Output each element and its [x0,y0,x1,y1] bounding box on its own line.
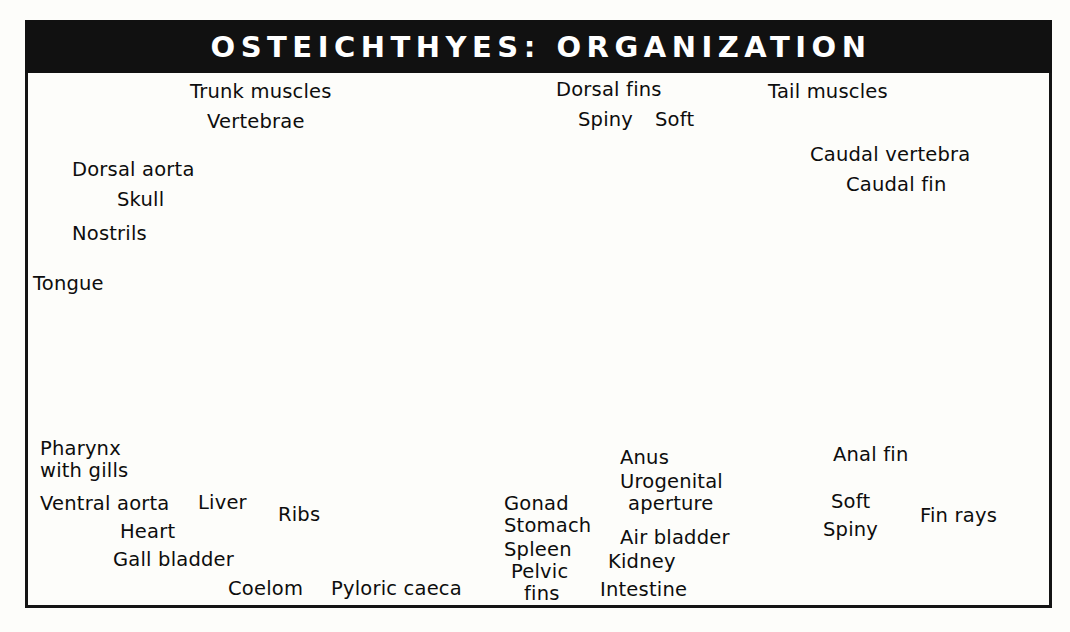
label-dorsal-spiny: Spiny [578,108,633,131]
label-tail-muscles: Tail muscles [768,80,888,103]
label-nostrils: Nostrils [72,222,147,245]
label-kidney: Kidney [608,550,676,573]
label-urogenital-l1: Urogenital [620,470,723,493]
label-pelvic-l1: Pelvic [511,560,568,583]
label-trunk-muscles: Trunk muscles [190,80,332,103]
label-caudal-fin: Caudal fin [846,173,947,196]
label-dorsal-soft: Soft [655,108,694,131]
label-tongue: Tongue [33,272,104,295]
label-spleen: Spleen [504,538,572,561]
label-heart: Heart [120,520,175,543]
label-gonad: Gonad [504,492,569,515]
label-fin-soft: Soft [831,490,870,513]
figure-plate: OSTEICHTHYES: ORGANIZATION Trunk muscles… [0,0,1070,632]
label-fin-spiny: Spiny [823,518,878,541]
label-stomach: Stomach [504,514,591,537]
label-gall-bladder: Gall bladder [113,548,234,571]
page-title: OSTEICHTHYES: ORGANIZATION [206,30,872,64]
label-dorsal-fins: Dorsal fins [556,78,662,101]
label-skull: Skull [117,188,164,211]
label-vertebrae: Vertebrae [207,110,305,133]
label-fin-rays: Fin rays [920,504,997,527]
label-ribs: Ribs [278,503,320,526]
label-liver: Liver [198,491,247,514]
label-coelom: Coelom [228,577,303,600]
label-pelvic-l2: fins [524,582,560,605]
label-pyloric-caeca: Pyloric caeca [331,577,462,600]
plate-title-bar: OSTEICHTHYES: ORGANIZATION [25,20,1052,73]
label-pharynx-l1: Pharynx [40,437,121,460]
label-intestine: Intestine [600,578,687,601]
label-urogenital-l2: aperture [628,492,714,515]
label-ventral-aorta: Ventral aorta [40,492,170,515]
label-air-bladder: Air bladder [620,526,730,549]
label-dorsal-aorta: Dorsal aorta [72,158,195,181]
label-anus: Anus [620,446,669,469]
label-pharynx-l2: with gills [40,459,128,482]
label-caudal-vertebra: Caudal vertebra [810,143,970,166]
label-anal-fin: Anal fin [833,443,909,466]
